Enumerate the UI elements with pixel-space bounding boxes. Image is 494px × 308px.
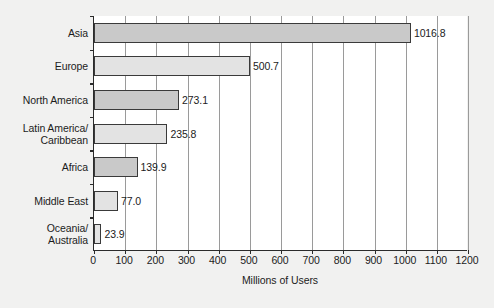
x-axis-label: 600 (271, 254, 288, 266)
x-axis-label: 700 (303, 254, 320, 266)
x-axis-label: 200 (147, 254, 164, 266)
bar-chart: AsiaEuropeNorth AmericaLatin America/ Ca… (0, 0, 494, 308)
x-axis-title: Millions of Users (93, 274, 467, 286)
x-axis-label: 900 (365, 254, 382, 266)
x-axis-label: 400 (209, 254, 226, 266)
x-axis-label: 800 (334, 254, 351, 266)
x-axis-label: 1000 (393, 254, 416, 266)
x-axis-label: 0 (90, 254, 96, 266)
x-axis-label: 100 (116, 254, 133, 266)
x-axis-label: 500 (240, 254, 257, 266)
x-axis-label: 300 (178, 254, 195, 266)
x-axis-label: 1200 (456, 254, 479, 266)
x-axis-labels: 0100200300400500600700800900100011001200 (0, 0, 494, 308)
x-axis-label: 1100 (425, 254, 447, 266)
